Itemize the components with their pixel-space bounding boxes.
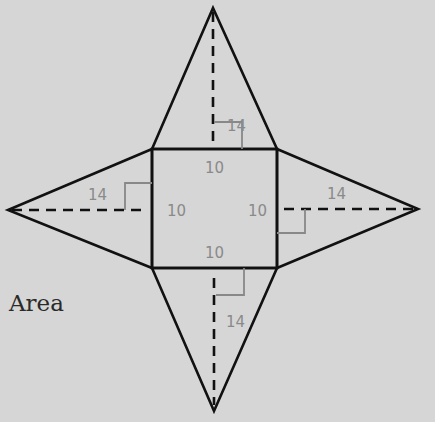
left-triangle-height-label: 14 [88,186,107,204]
pyramid-net-diagram: 14 14 14 14 10 10 10 10 [0,0,435,422]
area-caption: Area [9,290,64,316]
square-top-side-label: 10 [205,159,224,177]
top-triangle [152,8,277,149]
bottom-triangle-height-label: 14 [226,313,245,331]
top-triangle-height-label: 14 [227,117,246,135]
right-triangle-height-label: 14 [327,185,346,203]
right-angle-mark-left [125,183,152,210]
square-bottom-side-label: 10 [205,244,224,262]
square-left-side-label: 10 [167,202,186,220]
left-triangle [8,149,152,268]
square-right-side-label: 10 [248,202,267,220]
right-angle-mark-bottom [216,268,244,295]
right-angle-mark-right [277,209,305,233]
right-triangle [277,149,418,268]
